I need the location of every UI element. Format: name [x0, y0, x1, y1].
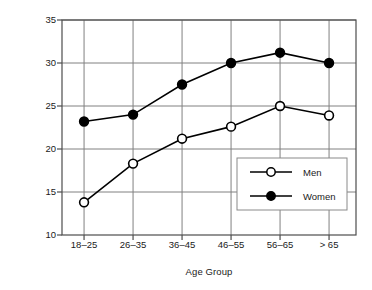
data-point-women-46–55 [227, 59, 236, 68]
body-fat-line-chart: Percent Body Fat (%) 35 30 25 20 15 10 1… [0, 0, 372, 290]
data-point-men-56–65 [276, 102, 285, 111]
data-point-men-46–55 [227, 122, 236, 131]
data-point-men-36–45 [178, 134, 187, 143]
legend-box [237, 158, 347, 210]
data-point-women-18–25 [80, 117, 89, 126]
legend: Men Women [237, 158, 347, 210]
data-point-men-18–25 [80, 198, 89, 207]
legend-marker-women-filled-circle-icon [267, 192, 275, 200]
legend-marker-men-open-circle-icon [267, 168, 275, 176]
legend-label-men: Men [303, 167, 321, 178]
data-point-men-26–35 [129, 159, 138, 168]
data-point-women-36–45 [178, 80, 187, 89]
data-point-women-> 65 [325, 59, 334, 68]
plot-canvas: Men Women [0, 0, 372, 290]
data-point-men-> 65 [325, 111, 334, 120]
data-point-women-26–35 [129, 110, 138, 119]
legend-label-women: Women [303, 191, 336, 202]
data-point-women-56–65 [276, 48, 285, 57]
series-markers-women [80, 48, 334, 126]
